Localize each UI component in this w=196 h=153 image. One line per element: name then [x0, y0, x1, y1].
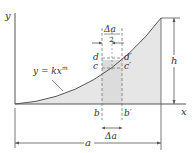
- label-h: h: [171, 55, 177, 66]
- label-c-prime: c′: [124, 61, 131, 71]
- label-delta-a-half-num: Δa: [103, 24, 116, 34]
- shaded-area: [15, 18, 161, 104]
- arrowhead: [157, 142, 161, 145]
- y-axis-label: y: [4, 10, 11, 21]
- curve-equation-exponent: m: [62, 64, 68, 71]
- element-strip: [102, 60, 122, 104]
- x-axis-label: x: [181, 106, 187, 117]
- label-b: b: [94, 108, 100, 118]
- equation-leader-line: [52, 80, 63, 91]
- arrowhead: [15, 142, 19, 145]
- label-b-prime: b′: [124, 108, 132, 118]
- curve-equation: y = kxm: [32, 64, 68, 76]
- arrowhead: [173, 18, 176, 22]
- area-under-curve-diagram: y x y = kxm d c d′ c′ b b′ Δa 2 Δa h a: [0, 0, 196, 153]
- label-a: a: [85, 137, 91, 148]
- arrowhead: [173, 100, 176, 104]
- arrowhead: [119, 127, 122, 130]
- arrowhead: [99, 42, 102, 45]
- label-delta-a-half-den: 2: [109, 35, 114, 44]
- curve-equation-lhs: y = kx: [32, 66, 62, 76]
- arrowhead: [102, 127, 105, 130]
- label-c: c: [93, 61, 98, 71]
- label-delta-a-bottom: Δa: [104, 131, 117, 141]
